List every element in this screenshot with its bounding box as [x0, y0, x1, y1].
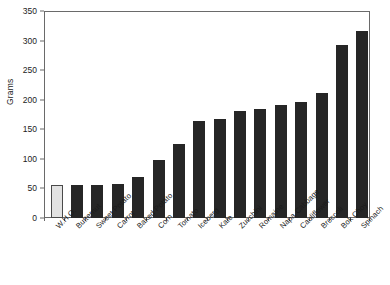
y-tick-label: 350 — [23, 6, 37, 16]
x-tick-mark — [248, 218, 249, 221]
bar — [153, 160, 165, 218]
x-axis-ticks — [44, 218, 370, 222]
x-tick-mark — [350, 218, 351, 221]
bar — [356, 31, 368, 218]
bar — [51, 185, 63, 218]
x-tick-mark — [329, 218, 330, 221]
bar — [295, 102, 307, 218]
x-tick-mark — [207, 218, 208, 221]
x-tick-mark — [268, 218, 269, 221]
bar-chart: Grams 050100150200250300350 W.H.O.Butter… — [0, 0, 390, 285]
x-tick-mark — [64, 218, 65, 221]
bar — [214, 119, 226, 218]
y-tick-label: 50 — [28, 183, 37, 193]
x-tick-mark — [166, 218, 167, 221]
y-tick-label: 300 — [23, 36, 37, 46]
y-tick-label: 200 — [23, 95, 37, 105]
y-tick-label: 100 — [23, 154, 37, 164]
bar — [173, 144, 185, 218]
y-tick-label: 250 — [23, 65, 37, 75]
x-tick-mark — [146, 218, 147, 221]
x-tick-mark — [289, 218, 290, 221]
bar — [193, 121, 205, 218]
x-tick-mark — [187, 218, 188, 221]
x-tick-mark — [309, 218, 310, 221]
x-tick-mark — [85, 218, 86, 221]
bars-container — [44, 11, 370, 218]
bar — [132, 177, 144, 218]
x-tick-mark — [227, 218, 228, 221]
x-tick-mark — [126, 218, 127, 221]
bar — [234, 111, 246, 218]
bar — [336, 45, 348, 218]
x-tick-mark — [44, 218, 45, 221]
bar — [254, 109, 266, 218]
x-tick-mark — [369, 218, 370, 221]
x-tick-mark — [105, 218, 106, 221]
bar — [112, 184, 124, 218]
y-axis-ticks: 050100150200250300350 — [0, 0, 44, 230]
bar — [316, 93, 328, 218]
bar — [71, 185, 83, 218]
y-tick-label: 0 — [32, 213, 37, 223]
bar — [275, 105, 287, 218]
bar — [91, 185, 103, 218]
y-tick-label: 150 — [23, 124, 37, 134]
